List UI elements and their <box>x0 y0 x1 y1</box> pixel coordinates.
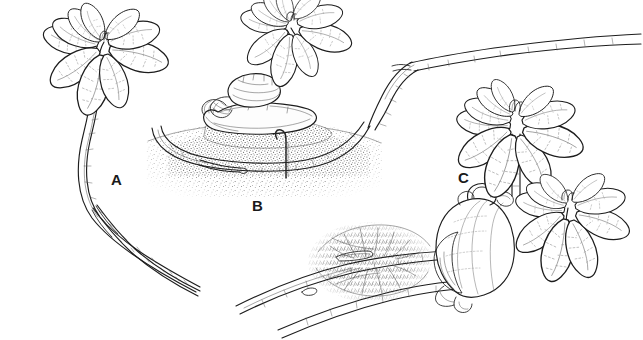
illustration-canvas: A <box>0 0 643 340</box>
panel-label-a: A <box>111 171 122 188</box>
panel-label-c: C <box>458 169 469 186</box>
panel-label-b: B <box>252 197 263 214</box>
botanical-figure: A <box>0 0 643 340</box>
